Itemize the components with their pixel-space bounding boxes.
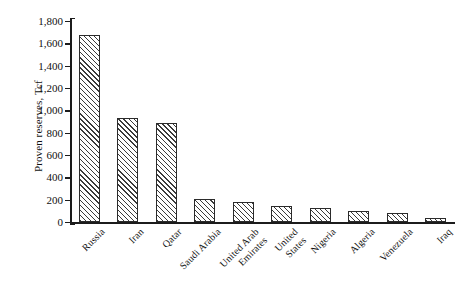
y-axis-tick-label: 600 bbox=[47, 149, 64, 161]
bar bbox=[79, 35, 100, 222]
bar bbox=[233, 202, 254, 222]
bar bbox=[348, 211, 369, 222]
value-axis-top-cap bbox=[70, 18, 75, 19]
bars-layer bbox=[70, 21, 455, 222]
bar bbox=[156, 123, 177, 222]
plot-area: 1,8001,6001,4001,2001,0008006004002000 bbox=[70, 21, 458, 222]
y-axis-tick-label: 800 bbox=[47, 127, 64, 139]
y-axis-tick-label: 1,800 bbox=[38, 15, 63, 27]
y-axis-tick-label: 1,600 bbox=[38, 37, 63, 49]
category-axis-labels: RussiaIranQatarSaudi ArabiaUnited Arab E… bbox=[70, 224, 460, 290]
bar bbox=[194, 199, 215, 222]
y-axis-tick-label: 0 bbox=[58, 216, 64, 228]
bar bbox=[117, 118, 138, 222]
y-axis-tick-label: 1,000 bbox=[38, 104, 63, 116]
bar bbox=[425, 218, 446, 222]
y-axis-tick-label: 1,400 bbox=[38, 60, 63, 72]
y-axis-tick-label: 400 bbox=[47, 171, 64, 183]
bar bbox=[387, 213, 408, 222]
bar bbox=[310, 208, 331, 222]
bar bbox=[271, 206, 292, 222]
y-axis-tick-label: 1,200 bbox=[38, 82, 63, 94]
y-axis-tick-label: 200 bbox=[47, 194, 64, 206]
bar-chart: Proven reserves, Tcf 1,8001,6001,4001,20… bbox=[0, 0, 466, 290]
